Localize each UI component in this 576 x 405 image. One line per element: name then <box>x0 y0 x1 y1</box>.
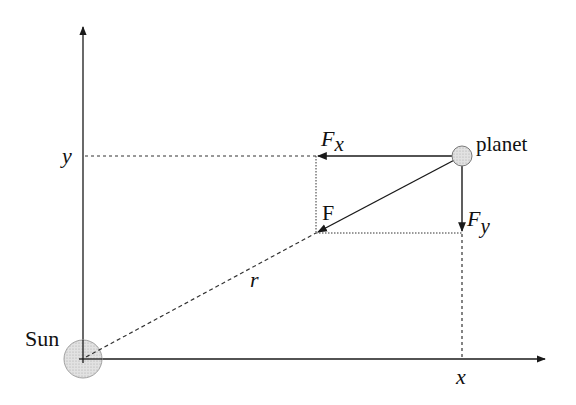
y-axis-label: y <box>60 143 72 168</box>
sun-label: Sun <box>25 326 59 351</box>
planet-body <box>452 146 472 166</box>
diagram-canvas: Sun planet F r Fx Fy y x <box>0 0 576 405</box>
planet-label: planet <box>476 132 527 156</box>
force-f-arrow <box>318 156 462 232</box>
r-label: r <box>250 267 259 292</box>
x-axis-label: x <box>455 364 466 389</box>
fy-label: Fy <box>466 206 490 238</box>
force-label: F <box>322 200 334 225</box>
r-line <box>86 233 316 357</box>
fx-label: Fx <box>320 126 344 156</box>
